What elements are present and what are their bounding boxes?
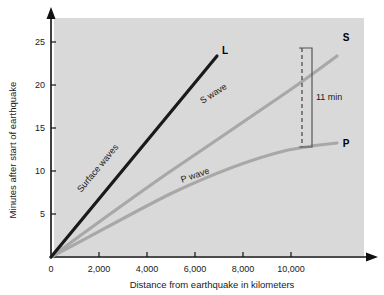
y-axis-title: Minutes after start of earthquake <box>7 82 18 219</box>
l-endpoint-label: L <box>222 45 228 56</box>
y-tick-label-20: 20 <box>35 80 45 90</box>
y-tick-label-25: 25 <box>35 37 45 47</box>
y-tick-label-10: 10 <box>35 166 45 176</box>
annotation-text: 11 min <box>316 92 342 102</box>
x-axis-title: Distance from earthquake in kilometers <box>130 279 295 290</box>
y-tick-label-5: 5 <box>40 209 45 219</box>
wave-travel-time-chart: 25 20 15 10 5 0 2,000 4,000 6,000 8,000 … <box>0 0 384 295</box>
x-tick-label-4000: 4,000 <box>136 264 159 274</box>
x-tick-label-2000: 2,000 <box>88 264 111 274</box>
x-tick-label-10000: 10,000 <box>277 264 305 274</box>
s-endpoint-label: S <box>343 32 350 43</box>
y-tick-label-15: 15 <box>35 123 45 133</box>
y-tick-label-0: 0 <box>48 264 53 274</box>
x-tick-label-6000: 6,000 <box>184 264 207 274</box>
chart-svg: 25 20 15 10 5 0 2,000 4,000 6,000 8,000 … <box>0 0 384 295</box>
p-endpoint-label: P <box>343 138 350 149</box>
x-tick-label-8000: 8,000 <box>232 264 255 274</box>
